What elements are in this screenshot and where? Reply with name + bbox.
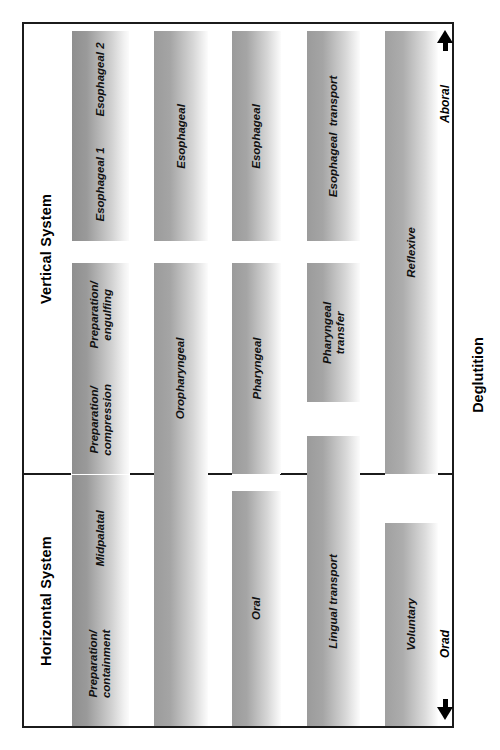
phase-label: Esophageal 1 — [94, 147, 107, 221]
phase-label: Esophageal transport — [327, 75, 340, 196]
aboral-direction: Aboral — [438, 54, 452, 154]
system-divider-c — [280, 473, 307, 475]
scheme-3-track: Esophageal Pharyngeal Oral — [232, 24, 281, 726]
group-label-horizontal-system: Horizontal System — [24, 475, 68, 726]
phase-block: Preparation/ compression — [72, 366, 129, 474]
diagram-frame: Vertical System Horizontal System Esopha… — [22, 22, 454, 728]
phase-block: Preparation/ engulfing — [72, 263, 129, 366]
orad-direction: Orad — [438, 594, 452, 694]
phase-label: Esophageal — [175, 104, 188, 169]
phase-label: Esophageal — [250, 104, 263, 169]
phase-block: Esophageal 2 — [72, 31, 129, 128]
phase-block: Esophageal 1 — [72, 128, 129, 241]
phase-block: Lingual transport — [307, 436, 360, 726]
phase-block: Oral — [232, 491, 281, 726]
phase-label: Reflexive — [405, 227, 418, 278]
phase-block: Reflexive — [385, 31, 438, 474]
phase-block: Oropharyngeal — [154, 263, 208, 726]
system-divider-d — [360, 473, 385, 475]
phase-label: Preparation/ engulfing — [88, 281, 114, 348]
phase-label: Esophageal 2 — [94, 42, 107, 116]
phase-block: Esophageal — [154, 31, 208, 241]
arrow-down-icon — [437, 707, 453, 720]
phase-label: Midpalatal — [94, 510, 107, 566]
arrow-up-icon — [437, 30, 453, 43]
system-divider-a — [130, 473, 154, 475]
group-label-horizontal-system-text: Horizontal System — [38, 536, 54, 666]
orad-label: Orad — [438, 630, 452, 658]
scheme-4-track: Esophageal transport Pharyngeal transfer… — [307, 24, 360, 726]
phase-label: Lingual transport — [327, 554, 340, 649]
phase-block: Pharyngeal — [232, 263, 281, 474]
phase-label: Voluntary — [405, 598, 418, 651]
group-label-vertical-system-text: Vertical System — [38, 193, 54, 303]
phase-block: Pharyngeal transfer — [307, 263, 360, 402]
system-divider-b — [207, 473, 232, 475]
scheme-2-track: Esophageal Oropharyngeal — [154, 24, 208, 726]
scheme-5-track: Reflexive Voluntary — [385, 24, 438, 726]
group-label-vertical-system: Vertical System — [24, 24, 68, 473]
direction-axis: Aboral Orad — [438, 24, 452, 726]
phase-block: Midpalatal — [72, 475, 129, 601]
arrow-down-stem — [443, 699, 448, 707]
phase-label: Preparation/ compression — [88, 384, 114, 456]
phase-block: Preparation/ containment — [72, 601, 129, 726]
phase-label: Preparation/ containment — [88, 629, 114, 697]
phase-label: Pharyngeal — [250, 338, 263, 400]
arrow-up-stem — [443, 43, 448, 51]
figure-caption: Deglutition — [456, 0, 500, 750]
scheme-1-track: Esophageal 2 Esophageal 1 Preparation/ e… — [72, 24, 129, 726]
phase-label: Oropharyngeal — [175, 338, 188, 420]
phase-label: Oral — [250, 597, 263, 620]
phase-block: Esophageal transport — [307, 31, 360, 241]
aboral-label: Aboral — [438, 85, 452, 123]
deglutition-phase-diagram: Vertical System Horizontal System Esopha… — [0, 0, 500, 750]
phase-label: Pharyngeal transfer — [321, 302, 347, 364]
phase-block: Voluntary — [385, 523, 438, 726]
figure-caption-text: Deglutition — [470, 337, 486, 413]
phase-block: Esophageal — [232, 31, 281, 241]
